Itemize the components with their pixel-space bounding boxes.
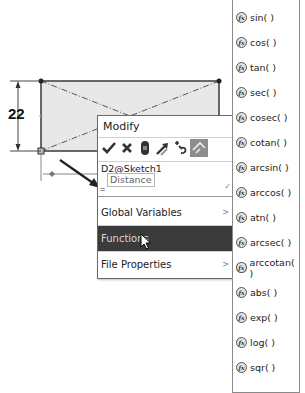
function-label: cotan( ) (250, 137, 287, 148)
mouse-cursor-icon (140, 233, 152, 250)
function-item-abs[interactable]: fxabs( ) (233, 280, 299, 305)
function-icon: fx (236, 312, 247, 323)
menu-item-functions[interactable]: Functions (98, 226, 232, 251)
function-icon: fx (236, 337, 247, 348)
function-item-cos[interactable]: fxcos( ) (233, 30, 299, 55)
check-icon (102, 141, 116, 155)
dropdown-chevron-icon[interactable]: ✓ (224, 182, 231, 191)
ok-button[interactable] (100, 139, 118, 157)
dimension-value-label[interactable]: 22 (8, 105, 25, 122)
function-label: abs( ) (250, 287, 277, 298)
function-icon: fx (236, 137, 247, 148)
function-label: sqr( ) (250, 362, 275, 373)
submenu-arrow-icon: > (222, 208, 229, 217)
function-label: arccotan( ) (250, 257, 299, 279)
link-value-button[interactable] (172, 139, 190, 157)
regenerate-icon (140, 140, 150, 156)
function-label: arccos( ) (250, 187, 291, 198)
function-item-sec[interactable]: fxsec( ) (233, 80, 299, 105)
function-item-sin[interactable]: fxsin( ) (233, 5, 299, 30)
dialog-title: Modify (103, 120, 139, 133)
link-value-icon (173, 140, 189, 156)
sketch-point[interactable] (217, 79, 222, 84)
functions-submenu: fxsin( ) fxcos( ) fxtan( ) fxsec( ) fxco… (232, 0, 300, 393)
dimension-arrow-up (16, 81, 21, 88)
function-item-sqr[interactable]: fxsqr( ) (233, 355, 299, 380)
function-item-log[interactable]: fxlog( ) (233, 330, 299, 355)
function-item-atn[interactable]: fxatn( ) (233, 205, 299, 230)
function-icon: fx (236, 237, 247, 248)
function-label: sec( ) (250, 87, 276, 98)
close-icon (121, 142, 133, 154)
function-icon: fx (236, 362, 247, 373)
menu-item-global-variables[interactable]: Global Variables > (98, 200, 232, 225)
dimension-handle[interactable] (49, 171, 55, 177)
divider (98, 161, 232, 162)
regenerate-button[interactable] (136, 139, 154, 157)
function-item-tan[interactable]: fxtan( ) (233, 55, 299, 80)
divider (98, 137, 232, 138)
submenu-arrow-icon: > (222, 260, 229, 269)
function-item-arcsec[interactable]: fxarcsec( ) (233, 230, 299, 255)
value-input-row: ✓ (98, 182, 232, 197)
cancel-button[interactable] (118, 139, 136, 157)
function-label: tan( ) (250, 62, 276, 73)
function-label: sin( ) (250, 12, 274, 23)
function-icon: fx (236, 212, 247, 223)
menu-item-file-properties[interactable]: File Properties > (98, 252, 232, 277)
midpoint-marker (40, 115, 43, 118)
function-icon: fx (236, 187, 247, 198)
dimension-reference-button[interactable] (190, 139, 208, 157)
function-label: exp( ) (250, 312, 278, 323)
function-label: atn( ) (250, 212, 276, 223)
value-input[interactable] (100, 183, 212, 195)
modify-dialog: Modify D2@Sketch1 Distance ✓ Global Vari… (97, 115, 233, 279)
menu-item-label: File Properties (101, 259, 171, 270)
dimension-arrow-down (16, 144, 21, 151)
reverse-dimension-icon (155, 140, 171, 156)
function-label: log( ) (250, 337, 275, 348)
function-icon: fx (236, 12, 247, 23)
function-icon: fx (236, 62, 247, 73)
function-label: arcsin( ) (250, 162, 289, 173)
function-icon: fx (236, 37, 247, 48)
menu-item-label: Global Variables (101, 207, 182, 218)
function-icon: fx (236, 162, 247, 173)
reverse-dimension-button[interactable] (154, 139, 172, 157)
function-item-exp[interactable]: fxexp( ) (233, 305, 299, 330)
function-item-cosec[interactable]: fxcosec( ) (233, 105, 299, 130)
callout-arrow (60, 160, 93, 183)
function-icon: fx (236, 87, 247, 98)
modify-toolbar (100, 139, 230, 159)
function-item-arcsin[interactable]: fxarcsin( ) (233, 155, 299, 180)
function-icon: fx (236, 262, 247, 273)
function-icon: fx (236, 112, 247, 123)
function-item-cotan[interactable]: fxcotan( ) (233, 130, 299, 155)
function-icon: fx (236, 287, 247, 298)
function-item-arccotan[interactable]: fxarccotan( ) (233, 255, 299, 280)
function-label: cosec( ) (250, 112, 288, 123)
function-item-arccos[interactable]: fxarccos( ) (233, 180, 299, 205)
function-label: arcsec( ) (250, 237, 291, 248)
dimension-reference-icon (191, 140, 207, 156)
function-label: cos( ) (250, 37, 276, 48)
